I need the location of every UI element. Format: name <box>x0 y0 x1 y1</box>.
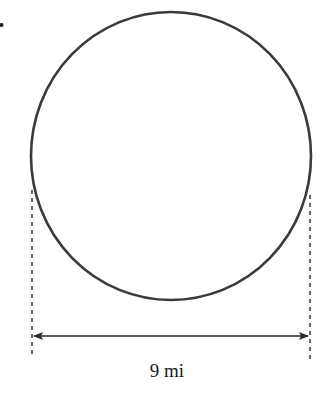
list-bullet-marker <box>0 23 4 27</box>
circle-diameter-diagram: 9 mi <box>0 0 324 393</box>
circle-shape <box>31 12 311 300</box>
diameter-label: 9 mi <box>150 360 184 381</box>
